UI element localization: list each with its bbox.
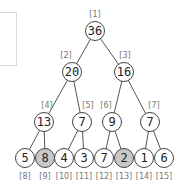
node-value: 5 <box>21 151 28 165</box>
tree-node-highlighted: 2 [13] <box>115 149 134 182</box>
tree-node: [1] 36 <box>86 10 105 41</box>
node-value: 20 <box>65 65 79 79</box>
node-index-label: [14] <box>136 172 152 181</box>
tree-node-highlighted: 8 [9] <box>36 149 55 182</box>
node-index-label: [11] <box>76 172 92 181</box>
node-value: 7 <box>146 115 153 129</box>
node-value: 6 <box>160 151 167 165</box>
node-value: 7 <box>78 115 85 129</box>
node-value: 36 <box>88 24 102 38</box>
node-index-label: [9] <box>39 172 50 181</box>
node-index-label: [3] <box>119 51 130 60</box>
tree-node: [7] 7 <box>141 101 160 132</box>
node-index-label: [6] <box>100 101 111 110</box>
tree-node: 1 [14] <box>135 149 154 182</box>
nodes: [1] 36 [2] 20 [3] 16 [4] 13 [5] 7 [6] <box>16 10 174 181</box>
tree-node: 7 [12] <box>95 149 114 182</box>
node-index-label: [7] <box>148 101 159 110</box>
node-index-label: [10] <box>56 172 72 181</box>
node-index-label: [5] <box>82 101 93 110</box>
node-index-label: [1] <box>89 10 100 19</box>
tree-node: 6 [15] <box>155 149 174 182</box>
node-value: 2 <box>120 151 127 165</box>
tree-node: [4] 13 <box>35 101 54 132</box>
node-index-label: [13] <box>116 172 132 181</box>
tree-node: [6] 9 <box>100 101 121 132</box>
tree-node: 5 [8] <box>16 149 35 182</box>
node-index-label: [12] <box>96 172 112 181</box>
node-value: 1 <box>140 151 147 165</box>
heap-tree-diagram: [1] 36 [2] 20 [3] 16 [4] 13 [5] 7 [6] <box>0 0 184 192</box>
tree-node: [3] 16 <box>115 51 134 82</box>
node-index-label: [2] <box>60 51 71 60</box>
tree-node: [5] 7 <box>73 101 94 132</box>
tree-node: 4 [10] <box>55 149 74 182</box>
node-value: 3 <box>80 151 87 165</box>
node-index-label: [4] <box>41 101 52 110</box>
node-index-label: [15] <box>156 172 172 181</box>
edges <box>25 31 164 158</box>
node-value: 4 <box>60 151 67 165</box>
node-value: 9 <box>108 115 115 129</box>
node-value: 16 <box>117 65 131 79</box>
node-value: 13 <box>37 115 51 129</box>
tree-node: [2] 20 <box>60 51 81 82</box>
tree-node: 3 [11] <box>75 149 94 182</box>
node-value: 8 <box>41 151 48 165</box>
node-value: 7 <box>100 151 107 165</box>
node-index-label: [8] <box>19 172 30 181</box>
